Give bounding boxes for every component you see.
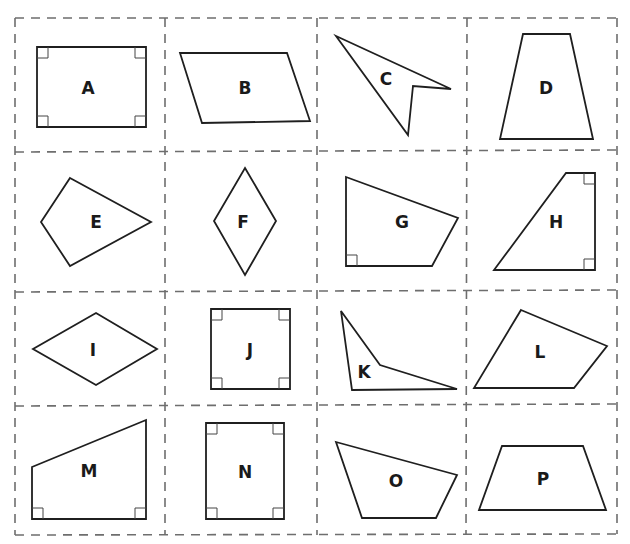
shape-card-b[interactable]: B [180,53,310,123]
arrowhead-shape [336,36,451,135]
shape-card-d[interactable]: D [500,34,593,139]
shape-card-o[interactable]: O [336,442,457,518]
shape-card-e[interactable]: E [41,178,151,266]
shape-label: G [395,212,409,232]
shape-label: F [237,212,249,232]
shape-card-p[interactable]: P [479,446,606,510]
grid-line [15,290,617,292]
shape-label: K [357,362,371,382]
shape-label: B [239,78,252,98]
grid-line [466,18,467,535]
shape-label: A [81,78,95,98]
shape-card-n[interactable]: N [206,423,284,519]
shape-card-k[interactable]: K [341,311,457,390]
shape-label: E [90,212,102,232]
shape-label: M [81,461,98,481]
shape-label: D [539,78,553,98]
shape-label: H [549,212,563,232]
shape-card-f[interactable]: F [214,168,276,275]
grid-line [15,150,617,152]
shape-card-i[interactable]: I [33,313,157,385]
shape-card-m[interactable]: M [32,420,146,519]
shape-card-l[interactable]: L [474,310,607,388]
right-trapezoid-shape [494,173,595,270]
shape-label: N [238,462,252,482]
shape-label: C [380,69,392,89]
shape-label: L [535,342,546,362]
shape-label: P [537,469,549,489]
shapes-diagram: A B C D E F G H I [0,0,630,544]
shape-label: I [90,340,96,360]
shape-card-a[interactable]: A [37,47,146,127]
shape-card-g[interactable]: G [346,177,458,266]
shape-card-h[interactable]: H [494,173,595,270]
grid-line [15,404,617,406]
shape-label: J [246,340,253,360]
shape-card-c[interactable]: C [336,36,451,135]
shape-label: O [389,471,403,491]
shape-card-j[interactable]: J [211,309,290,389]
grid-line [15,534,617,535]
